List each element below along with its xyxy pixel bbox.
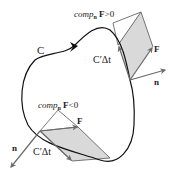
curve-label: C bbox=[37, 44, 44, 56]
bottom-f-label: F bbox=[77, 116, 83, 126]
top-tangent-label: C′Δt bbox=[93, 54, 111, 65]
top-f-label: F bbox=[154, 44, 160, 54]
top-comp-label: compn F>0 bbox=[74, 9, 115, 20]
bottom-n-label: n bbox=[12, 143, 17, 153]
top-parallelogram bbox=[113, 12, 153, 80]
top-n-label: n bbox=[154, 77, 159, 87]
bottom-comp-label: compn F<0 bbox=[38, 100, 79, 111]
flux-diagram: C compn F>0 F n C′Δt compn F<0 F n C′Δt bbox=[0, 0, 173, 178]
bottom-tangent-label: C′Δt bbox=[33, 146, 51, 157]
